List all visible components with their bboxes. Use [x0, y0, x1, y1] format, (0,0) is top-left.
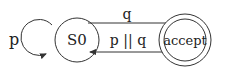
state-accept-label: accept [163, 33, 207, 48]
state-s0-label: S0 [67, 31, 87, 49]
transition-q-label: q [123, 6, 132, 22]
transition-p-or-q-label: p || q [110, 32, 146, 49]
self-loop-s0: p [9, 19, 52, 55]
state-s0: S0 [55, 18, 99, 62]
state-accept: accept [159, 14, 211, 66]
state-diagram: p S0 q p || q accept [0, 0, 240, 77]
self-loop-label: p [9, 30, 19, 49]
transition-s0-accept: q [88, 6, 176, 23]
